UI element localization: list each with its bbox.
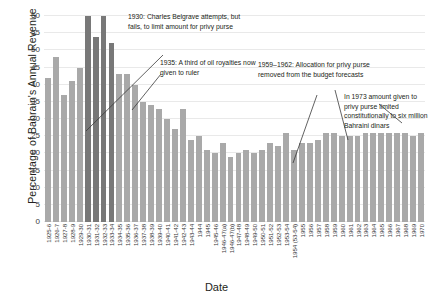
leader-line-1959 [293,95,317,163]
leader-line-1973-left [335,90,348,140]
leader-line-1973-right [379,104,402,123]
leader-line-1930 [86,55,163,131]
leader-lines [0,0,433,304]
bar-chart: Percentage of Bahrain's Annual Revenue 0… [0,0,433,304]
leader-line-1935 [132,74,161,110]
